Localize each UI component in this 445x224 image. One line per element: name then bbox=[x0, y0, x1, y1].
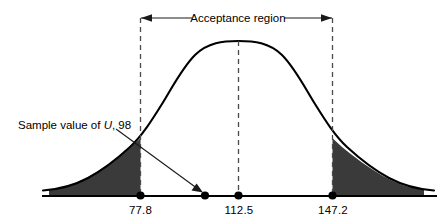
sample-value-label-prefix: Sample value of bbox=[18, 119, 104, 131]
axis-marker-dot-lower-bound bbox=[136, 191, 144, 199]
chart-canvas: Acceptance region Sample value of U, 98 … bbox=[0, 0, 445, 224]
normal-distribution-figure: Acceptance region Sample value of U, 98 … bbox=[0, 0, 445, 224]
sample-value-label: Sample value of U, 98 bbox=[18, 119, 131, 131]
acceptance-region-label: Acceptance region bbox=[190, 12, 285, 24]
axis-marker-dot-sample-value bbox=[201, 191, 209, 199]
x-tick-label-lower-bound: 77.8 bbox=[129, 204, 152, 216]
x-tick-label-upper-bound: 147.2 bbox=[318, 204, 348, 216]
x-tick-label-mean: 112.5 bbox=[225, 204, 254, 216]
axis-marker-dot-upper-bound bbox=[328, 191, 336, 199]
span-arrowhead-left-icon bbox=[141, 14, 152, 22]
axis-marker-dot-mean bbox=[234, 191, 242, 199]
acceptance-region-span: Acceptance region bbox=[141, 12, 332, 24]
sample-value-label-suffix: , 98 bbox=[112, 119, 131, 131]
span-arrowhead-right-icon bbox=[321, 14, 332, 22]
